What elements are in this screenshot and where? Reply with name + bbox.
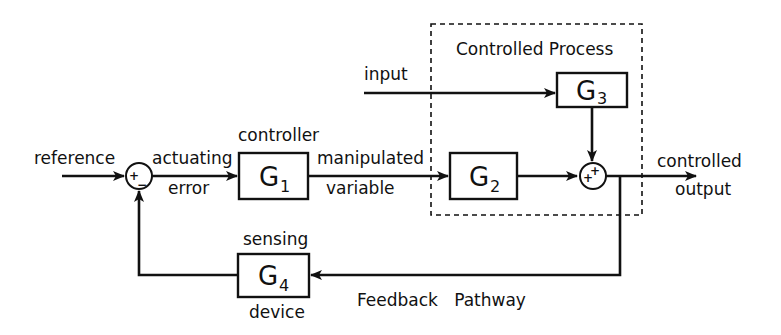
g3-subscript: 3 <box>597 89 607 108</box>
feedback-to-summer-arrow <box>139 191 238 275</box>
g4-letter: G <box>258 261 278 291</box>
manipulated-label: manipulated <box>317 148 424 168</box>
g1-letter: G <box>259 162 279 192</box>
g3-letter: G <box>576 76 596 106</box>
output-label: output <box>675 179 731 199</box>
control-block-diagram: Controlled Process reference + − actuati… <box>0 0 781 335</box>
actuating-label: actuating <box>152 148 233 168</box>
minus-sign: − <box>137 178 147 192</box>
controller-label: controller <box>238 125 319 145</box>
variable-label: variable <box>326 178 395 198</box>
block-g4-sensing-device: sensing G 4 device <box>238 229 309 322</box>
block-g1-controller: controller G 1 <box>238 125 319 199</box>
g2-subscript: 2 <box>490 177 500 196</box>
device-label: device <box>249 302 305 322</box>
error-label: error <box>168 178 209 198</box>
feedback-pathway-label: Feedback Pathway <box>357 290 526 310</box>
g2-letter: G <box>469 162 489 192</box>
summing-junction-2: + + <box>580 163 606 189</box>
summing-junction-1: + − <box>126 163 152 192</box>
block-g3: G 3 <box>557 73 627 108</box>
block-g2: G 2 <box>450 153 517 199</box>
g1-subscript: 1 <box>280 177 290 196</box>
g4-subscript: 4 <box>279 276 289 295</box>
sensing-label: sensing <box>243 229 308 249</box>
reference-label: reference <box>34 148 115 168</box>
controlled-process-label: Controlled Process <box>456 39 613 59</box>
plus-sign-top: + <box>590 164 600 178</box>
input-label: input <box>364 64 408 84</box>
controlled-label: controlled <box>657 151 742 171</box>
